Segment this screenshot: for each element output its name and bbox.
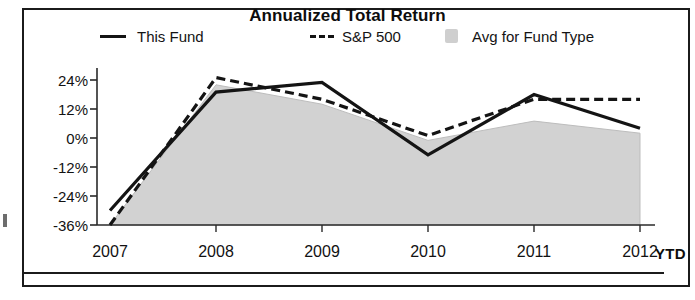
avg-for-fund-type-area	[110, 85, 640, 225]
x-axis-label-2012: 2012	[622, 243, 658, 261]
x-axis-label-2008: 2008	[198, 243, 234, 261]
x-axis-label-2009: 2009	[304, 243, 340, 261]
x-axis-ytd-label: YTD	[655, 245, 686, 262]
y-axis-label-neg36: -36%	[32, 217, 88, 234]
y-axis-label-24: 24%	[32, 72, 88, 89]
annualized-total-return-chart: Annualized Total Return This Fund S&P 50…	[0, 0, 695, 300]
y-axis-label-0: 0%	[32, 130, 88, 147]
bottom-rule	[24, 272, 664, 274]
y-axis-label-neg12: -12%	[32, 159, 88, 176]
x-axis-label-2011: 2011	[517, 243, 551, 261]
x-axis-label-2007: 2007	[92, 243, 128, 261]
x-axis-tick-labels: 200720082009201020112012	[0, 243, 695, 269]
y-axis-label-neg24: -24%	[32, 188, 88, 205]
x-axis-label-2010: 2010	[410, 243, 446, 261]
y-axis-label-12: 12%	[32, 101, 88, 118]
plot-area: 24%12%0%-12%-24%-36% 2007200820092010201…	[0, 0, 695, 300]
